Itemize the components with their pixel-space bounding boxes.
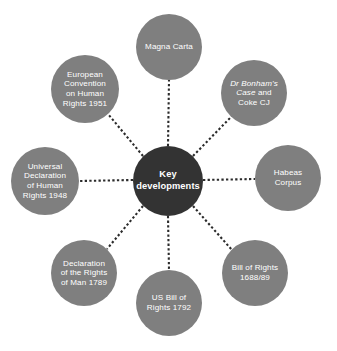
node-label-us-bill-of-rights-1792: US Bill of Rights 1792 [144, 293, 194, 312]
node-european-convention-human-rights-1951[interactable]: European Convention on Human Rights 1951 [51, 55, 119, 123]
node-label-habeas-corpus: Habeas Corpus [271, 168, 306, 187]
spoke-bill-of-rights [193, 206, 232, 250]
center-node-label: Key developments [133, 169, 203, 192]
spoke-us-bill-of-rights [168, 216, 169, 270]
node-bill-of-rights-1688[interactable]: Bill of Rights 1688/89 [222, 240, 288, 306]
node-us-bill-of-rights-1792[interactable]: US Bill of Rights 1792 [136, 270, 202, 336]
spoke-magna-carta [168, 80, 169, 146]
spoke-universal-decl [79, 180, 133, 181]
node-label-bill-of-rights-1688: Bill of Rights 1688/89 [229, 263, 281, 282]
spoke-dr-bonhams-case [193, 117, 231, 156]
key-developments-diagram: Key developments Magna CartaDr Bonham's … [0, 0, 337, 351]
node-label-universal-declaration-human-rights-1948: Universal Declaration of Human Rights 19… [20, 162, 70, 200]
node-label-declaration-rights-of-man-1789: Declaration of the Rights of Man 1789 [58, 259, 111, 288]
node-label-dr-bonhams-case: Dr Bonham's Case and Coke CJ [227, 79, 281, 108]
node-habeas-corpus[interactable]: Habeas Corpus [255, 145, 321, 211]
node-dr-bonhams-case[interactable]: Dr Bonham's Case and Coke CJ [221, 60, 287, 126]
spoke-habeas-corpus [203, 179, 255, 180]
node-label-magna-carta: Magna Carta [142, 42, 196, 52]
spoke-declaration-man [107, 206, 143, 249]
spoke-european-convention [108, 114, 143, 156]
node-declaration-rights-of-man-1789[interactable]: Declaration of the Rights of Man 1789 [51, 240, 117, 306]
node-label-european-convention-human-rights-1951: European Convention on Human Rights 1951 [60, 70, 110, 108]
node-universal-declaration-human-rights-1948[interactable]: Universal Declaration of Human Rights 19… [11, 147, 79, 215]
center-node-key-developments[interactable]: Key developments [133, 146, 203, 216]
node-magna-carta[interactable]: Magna Carta [136, 14, 202, 80]
